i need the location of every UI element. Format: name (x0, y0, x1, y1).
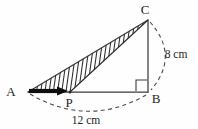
hatch-fill-apc (0, 0, 198, 129)
base-dimension-arc (30, 94, 146, 111)
point-p-dot (69, 91, 72, 94)
vertex-label-p: P (65, 95, 72, 110)
geometry-diagram: A B C P 12 cm 8 cm (0, 0, 198, 129)
base-dimension-label: 12 cm (72, 114, 100, 126)
vertex-label-b: B (152, 91, 161, 106)
height-dimension-label: 8 cm (165, 48, 188, 60)
right-angle-icon (136, 80, 147, 91)
vertex-label-c: C (141, 2, 150, 17)
diagram-canvas: A B C P 12 cm 8 cm (0, 0, 198, 129)
vertex-label-a: A (6, 84, 16, 99)
height-dimension-arc (150, 22, 165, 90)
